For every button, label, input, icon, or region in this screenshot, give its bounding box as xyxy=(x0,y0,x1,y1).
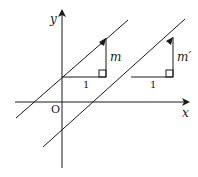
slope-diagram: y x O 1 m 1 m′ xyxy=(0,0,198,177)
origin-label: O xyxy=(51,104,60,115)
triangle-2-arrow-icon xyxy=(166,37,173,45)
triangle-2-rise-label: m′ xyxy=(177,51,191,63)
triangle-2-right-angle xyxy=(166,70,173,77)
triangle-2-run-label: 1 xyxy=(150,80,156,90)
diagram-graphics xyxy=(0,0,198,177)
triangle-1-run-label: 1 xyxy=(83,80,89,90)
line-1 xyxy=(16,20,128,118)
x-axis-label: x xyxy=(182,107,189,119)
line-2 xyxy=(43,19,185,147)
y-axis-label: y xyxy=(50,13,57,25)
triangle-1-rise-label: m xyxy=(110,51,121,63)
triangle-1-right-angle xyxy=(99,70,106,77)
